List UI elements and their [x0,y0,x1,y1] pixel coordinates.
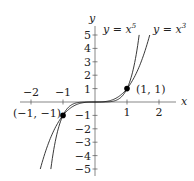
y-tick-label: −2 [75,123,91,136]
x-tick-label: 1 [124,106,131,119]
data-point [60,113,66,119]
y-tick-label: 3 [84,56,91,69]
y-tick-label: 2 [84,69,91,82]
curve-x3-label: y = x3 [152,22,187,36]
y-tick-label: 5 [84,29,91,42]
point-label-neg1-neg1: (−1, −1) [13,107,61,120]
axes: −2−112−5−4−3−2−112345 [20,26,176,176]
y-tick-label: −4 [75,150,91,163]
y-tick-label: 1 [84,83,91,96]
point-label-1-1: (1, 1) [136,83,166,96]
power-function-chart: −2−112−5−4−3−2−112345 x y y = x5 y = x3 … [0,0,194,181]
data-point [124,86,130,92]
x-tick-label: −2 [23,86,39,99]
x-tick-label: −1 [55,86,71,99]
y-tick-label: 4 [84,42,91,55]
x-axis-label: x [181,95,188,108]
labels: x y y = x5 y = x3 (1, 1) (−1, −1) [13,12,188,120]
y-tick-label: −3 [75,136,91,149]
y-tick-label: −1 [75,109,91,122]
curve-x5-label: y = x5 [102,22,137,36]
y-axis-label: y [88,12,96,25]
x-tick-label: 2 [156,106,163,119]
y-tick-label: −5 [75,163,91,176]
